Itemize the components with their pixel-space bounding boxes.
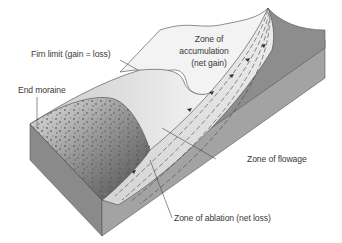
label-end-moraine: End moraine [18, 85, 66, 95]
label-zone-flowage: Zone of flowage [247, 154, 307, 164]
label-zone-accumulation-1: Zone of [181, 34, 237, 44]
label-zone-accumulation-2: accumulation [168, 46, 240, 56]
label-firn-limit: Firn limit (gain = loss) [31, 49, 111, 59]
label-zone-ablation: Zone of ablation (net loss) [174, 213, 271, 223]
label-zone-accumulation-3: (net gain) [181, 58, 237, 68]
glacier-diagram [0, 0, 342, 243]
